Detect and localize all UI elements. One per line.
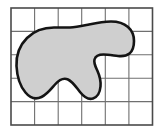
grid-and-shape-figure bbox=[0, 0, 162, 136]
figure-container bbox=[0, 0, 162, 136]
